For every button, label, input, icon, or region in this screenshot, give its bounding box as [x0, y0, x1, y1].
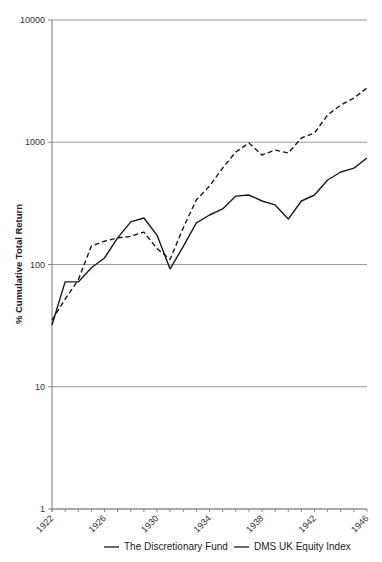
legend-label-fund: The Discretionary Fund — [124, 541, 228, 552]
x-tick-label: 1934 — [192, 513, 213, 534]
axes — [52, 20, 367, 512]
x-tick-label: 1946 — [349, 513, 370, 534]
legend-label-index: DMS UK Equity Index — [254, 541, 351, 552]
y-tick-label: 10000 — [20, 15, 45, 25]
series-lines — [52, 88, 367, 325]
y-tick-label: 1000 — [25, 137, 45, 147]
x-tick-label: 1922 — [34, 513, 55, 534]
y-tick-label: 100 — [30, 260, 45, 270]
series-the-discretionary-fund — [52, 88, 367, 320]
y-axis-title: % Cumulative Total Return — [13, 204, 24, 324]
x-tick-label: 1930 — [139, 513, 160, 534]
x-tick-label: 1938 — [244, 513, 265, 534]
line-chart: 110100100010000 192219261930193419381942… — [0, 0, 382, 562]
series-dms-uk-equity-index — [52, 158, 367, 325]
x-tick-label: 1926 — [87, 513, 108, 534]
x-axis-ticks: 1922192619301934193819421946 — [34, 509, 370, 535]
legend: The Discretionary Fund DMS UK Equity Ind… — [104, 541, 351, 552]
gridlines — [52, 20, 367, 509]
y-tick-label: 10 — [35, 382, 45, 392]
y-axis-ticks: 110100100010000 — [20, 15, 52, 514]
y-tick-label: 1 — [40, 504, 45, 514]
x-tick-label: 1942 — [297, 513, 318, 534]
